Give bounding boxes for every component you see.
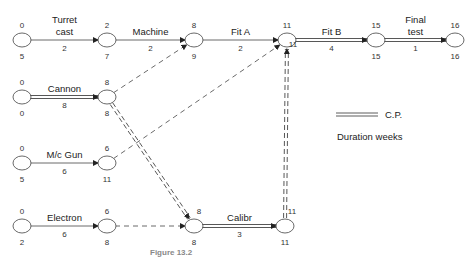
latest-time: 8 — [105, 109, 110, 118]
critical-path-line — [284, 49, 286, 218]
latest-time: 11 — [103, 175, 112, 184]
event-circle — [367, 33, 385, 47]
activity-duration: 1 — [413, 44, 418, 53]
earliest-time: 15 — [372, 21, 381, 30]
activity-fit-a: Fit A2 — [202, 26, 278, 53]
event-node: 1616 — [446, 21, 464, 61]
earliest-time: 0 — [20, 78, 25, 87]
activity-machine: Machine2 — [115, 26, 185, 53]
event-circle — [185, 33, 203, 47]
latest-time: 0 — [20, 109, 25, 118]
activity-label: Calibr — [227, 212, 252, 223]
activity-label: Fit B — [322, 26, 342, 37]
activity-turret: Turretcast2 — [30, 14, 98, 53]
event-circle — [185, 219, 203, 233]
activity-m-c-gun: M/c Gun6 — [30, 149, 98, 176]
legend: C.P. Duration weeks — [336, 109, 403, 142]
earliest-time: 8 — [105, 78, 110, 87]
dummy-activity — [110, 103, 190, 220]
earliest-time: 8 — [192, 21, 197, 30]
activity-duration: 2 — [62, 44, 67, 53]
critical-path-line — [110, 104, 187, 219]
event-circle — [98, 219, 116, 233]
activity-duration: 6 — [62, 167, 67, 176]
dummy-activity — [114, 45, 280, 158]
activity-duration: 6 — [62, 230, 67, 239]
activity-duration: 2 — [238, 44, 243, 53]
latest-time: 8 — [105, 238, 110, 247]
event-node: 68 — [98, 207, 116, 247]
critical-path-line — [113, 103, 190, 218]
legend-duration-note: Duration weeks — [337, 131, 403, 142]
event-node: 1111 — [278, 21, 298, 49]
event-node: 05 — [13, 21, 31, 61]
event-node: 27 — [98, 21, 116, 61]
latest-time: 11 — [281, 238, 290, 247]
earliest-time: 11 — [288, 207, 297, 216]
earliest-time: 0 — [20, 21, 25, 30]
activity-duration: 4 — [329, 44, 334, 53]
earliest-time: 2 — [105, 21, 110, 30]
latest-time: 7 — [105, 52, 110, 61]
event-node: 88 — [98, 78, 116, 118]
latest-time: 15 — [372, 52, 381, 61]
event-circle — [13, 156, 31, 170]
activity-final: Finaltest1 — [384, 14, 446, 53]
activity-calibr: Calibr3 — [202, 212, 276, 239]
earliest-time: 16 — [451, 21, 460, 30]
activity-fit-b: Fit B4 — [295, 26, 367, 53]
activity-label: Final — [405, 14, 426, 25]
activity-label: test — [408, 26, 424, 37]
earliest-time: 0 — [20, 207, 25, 216]
event-node: 88 — [185, 207, 203, 247]
earliest-time: 11 — [283, 21, 292, 30]
dummy-line — [114, 45, 280, 158]
earliest-time: 8 — [197, 207, 202, 216]
activity-label: Cannon — [48, 83, 81, 94]
activity-duration: 2 — [148, 44, 153, 53]
activity-cannon: Cannon8 — [30, 83, 98, 110]
activity-label: Machine — [133, 26, 169, 37]
event-circle — [98, 156, 116, 170]
latest-time: 9 — [192, 52, 197, 61]
activity-label: Electron — [47, 212, 82, 223]
activity-label: M/c Gun — [47, 149, 83, 160]
event-circle — [13, 33, 31, 47]
legend-critical-path-label: C.P. — [385, 109, 402, 120]
event-node: 1111 — [276, 207, 297, 247]
latest-time: 2 — [20, 238, 25, 247]
dummy-activity — [284, 49, 289, 218]
critical-path-line — [287, 49, 289, 218]
latest-time: 5 — [20, 175, 25, 184]
event-node: 1515 — [367, 21, 385, 61]
latest-time: 5 — [20, 52, 25, 61]
earliest-time: 6 — [105, 207, 110, 216]
figure-caption: Figure 13.2 — [150, 248, 193, 257]
latest-time: 8 — [192, 238, 197, 247]
latest-time: 16 — [451, 52, 460, 61]
event-node: 02 — [13, 207, 31, 247]
event-circle — [13, 219, 31, 233]
event-circle — [446, 33, 464, 47]
earliest-time: 0 — [20, 144, 25, 153]
activity-label: Turret — [52, 14, 77, 25]
earliest-time: 6 — [105, 144, 110, 153]
activity-duration: 3 — [237, 230, 242, 239]
event-node: 05 — [13, 144, 31, 184]
activity-duration: 8 — [62, 101, 67, 110]
network-diagram: Turretcast2Machine2Fit A2Fit B4Finaltest… — [0, 0, 475, 257]
activity-label: cast — [56, 26, 74, 37]
event-circle — [13, 90, 31, 104]
event-circle — [98, 90, 116, 104]
activity-electron: Electron6 — [30, 212, 98, 239]
event-circle — [276, 219, 294, 233]
latest-time: 11 — [289, 40, 298, 49]
event-node: 89 — [185, 21, 203, 61]
activity-label: Fit A — [231, 26, 251, 37]
event-node: 00 — [13, 78, 31, 118]
event-node: 611 — [98, 144, 116, 184]
event-circle — [98, 33, 116, 47]
